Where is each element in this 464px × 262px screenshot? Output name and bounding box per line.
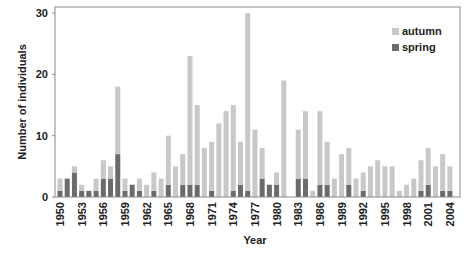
bar-spring-1975 bbox=[238, 185, 243, 197]
x-tick-label: 1995 bbox=[379, 202, 391, 226]
bar-autumn-1963 bbox=[151, 172, 156, 190]
bar-autumn-1961 bbox=[137, 179, 142, 191]
legend-label-autumn: autumn bbox=[402, 25, 442, 37]
x-tick-label: 1971 bbox=[206, 202, 218, 226]
bar-spring-1983 bbox=[296, 179, 301, 197]
bar-spring-1984 bbox=[303, 179, 308, 197]
x-tick-label: 1962 bbox=[141, 202, 153, 226]
bar-autumn-1952 bbox=[72, 166, 77, 172]
bar-spring-1986 bbox=[317, 185, 322, 197]
bar-spring-1959 bbox=[122, 191, 127, 197]
bar-spring-1952 bbox=[72, 172, 77, 197]
bar-autumn-1962 bbox=[144, 185, 149, 197]
bar-spring-1980 bbox=[274, 185, 279, 197]
bar-spring-1967 bbox=[180, 185, 185, 197]
bar-spring-2003 bbox=[440, 191, 445, 197]
bar-autumn-1980 bbox=[274, 172, 279, 184]
x-tick-label: 1959 bbox=[119, 202, 131, 226]
x-tick-label: 1986 bbox=[314, 202, 326, 226]
bar-autumn-1983 bbox=[296, 130, 301, 179]
x-tick-label: 1965 bbox=[162, 202, 174, 226]
x-tick-label: 2004 bbox=[444, 201, 456, 226]
bar-autumn-1966 bbox=[173, 166, 178, 197]
bar-autumn-1957 bbox=[108, 166, 113, 178]
stacked-bar-chart: 0102030 19501953195619591962196519681971… bbox=[0, 0, 464, 262]
x-tick-label: 1998 bbox=[401, 202, 413, 226]
bar-autumn-1981 bbox=[281, 81, 286, 197]
legend-swatch-autumn bbox=[392, 28, 399, 35]
bar-autumn-2000 bbox=[419, 160, 424, 191]
bar-autumn-1959 bbox=[122, 179, 127, 191]
bar-autumn-2001 bbox=[426, 148, 431, 185]
bar-autumn-1990 bbox=[346, 148, 351, 185]
bar-autumn-1974 bbox=[231, 105, 236, 191]
bar-autumn-1989 bbox=[339, 154, 344, 197]
x-tick-label: 1983 bbox=[292, 202, 304, 226]
bar-spring-1961 bbox=[137, 191, 142, 197]
bar-spring-1974 bbox=[231, 191, 236, 197]
bar-spring-1960 bbox=[130, 185, 135, 197]
bar-spring-1956 bbox=[101, 179, 106, 197]
bar-autumn-1999 bbox=[411, 179, 416, 197]
bar-autumn-1987 bbox=[325, 142, 330, 185]
bar-autumn-1950 bbox=[58, 179, 63, 191]
bar-autumn-1967 bbox=[180, 154, 185, 185]
bar-autumn-1997 bbox=[397, 191, 402, 197]
x-tick-label: 1992 bbox=[357, 202, 369, 226]
x-tick-label: 1989 bbox=[336, 202, 348, 226]
bar-autumn-1998 bbox=[404, 185, 409, 197]
y-axis-title: Number of individuals bbox=[16, 44, 28, 160]
x-tick-label: 1953 bbox=[76, 202, 88, 226]
x-axis-title: Year bbox=[243, 234, 267, 246]
bar-spring-1987 bbox=[325, 185, 330, 197]
bar-spring-1978 bbox=[260, 179, 265, 197]
bar-autumn-1993 bbox=[368, 166, 373, 197]
bar-spring-1969 bbox=[195, 185, 200, 197]
bar-autumn-1955 bbox=[94, 179, 99, 191]
bar-autumn-1977 bbox=[252, 130, 257, 197]
bar-autumn-1995 bbox=[382, 166, 387, 197]
y-tick-label: 20 bbox=[36, 68, 48, 80]
y-tick-label: 30 bbox=[36, 7, 48, 19]
bar-autumn-1953 bbox=[79, 185, 84, 191]
bar-spring-1953 bbox=[79, 191, 84, 197]
bar-spring-1979 bbox=[267, 185, 272, 197]
bar-spring-2000 bbox=[419, 191, 424, 197]
bar-autumn-1958 bbox=[115, 87, 120, 154]
bar-autumn-1988 bbox=[332, 179, 337, 197]
bar-autumn-1973 bbox=[224, 111, 229, 197]
legend-label-spring: spring bbox=[402, 41, 436, 53]
bar-spring-1954 bbox=[86, 191, 91, 197]
x-tick-label: 1956 bbox=[97, 202, 109, 226]
x-tick-label: 1950 bbox=[54, 202, 66, 226]
bar-autumn-1994 bbox=[375, 160, 380, 197]
bar-spring-2001 bbox=[426, 185, 431, 197]
x-tick-label: 1977 bbox=[249, 202, 261, 226]
bar-autumn-1996 bbox=[390, 166, 395, 197]
bar-autumn-2002 bbox=[433, 166, 438, 197]
bar-autumn-1956 bbox=[101, 160, 106, 178]
legend-swatch-spring bbox=[392, 44, 399, 51]
bar-autumn-1970 bbox=[202, 148, 207, 197]
bar-autumn-1975 bbox=[238, 142, 243, 185]
bar-spring-1958 bbox=[115, 154, 120, 197]
x-tick-label: 1974 bbox=[227, 201, 239, 226]
bar-spring-1951 bbox=[65, 179, 70, 197]
bar-spring-1968 bbox=[187, 185, 192, 197]
bar-spring-1955 bbox=[94, 191, 99, 197]
y-tick-label: 0 bbox=[42, 191, 48, 203]
bar-spring-2004 bbox=[447, 191, 452, 197]
bar-autumn-1978 bbox=[260, 148, 265, 179]
bar-spring-1957 bbox=[108, 179, 113, 197]
bar-spring-1971 bbox=[209, 191, 214, 197]
bar-spring-1992 bbox=[361, 191, 366, 197]
bar-spring-1976 bbox=[245, 191, 250, 197]
bar-spring-1950 bbox=[58, 191, 63, 197]
bar-autumn-1976 bbox=[245, 13, 250, 191]
bar-autumn-1984 bbox=[303, 111, 308, 178]
x-tick-label: 1980 bbox=[271, 202, 283, 226]
bar-autumn-1992 bbox=[361, 172, 366, 190]
bar-autumn-1972 bbox=[216, 123, 221, 197]
bar-autumn-1968 bbox=[187, 56, 192, 185]
x-tick-label: 1968 bbox=[184, 202, 196, 226]
